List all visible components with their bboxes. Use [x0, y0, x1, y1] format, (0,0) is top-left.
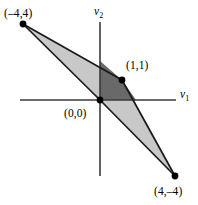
point-marker-one-one — [119, 77, 126, 84]
v2-axis-label: v2 — [94, 6, 103, 18]
figure-canvas — [0, 0, 198, 205]
point-marker-bottom-right — [172, 173, 179, 180]
point-marker-top-left — [20, 21, 27, 28]
v2-axis-label-subscript: 2 — [99, 11, 103, 20]
v1-axis-label: v1 — [180, 89, 189, 101]
point-label-top-left: (–4,4) — [4, 8, 32, 20]
point-label-one-one: (1,1) — [126, 60, 149, 72]
v1-axis-label-subscript: 1 — [185, 94, 189, 103]
point-marker-origin — [97, 97, 104, 104]
point-label-origin: (0,0) — [64, 108, 87, 120]
point-label-bottom-right: (4,–4) — [154, 186, 182, 198]
vector-span-figure: (–4,4) (1,1) (0,0) (4,–4) v2 v1 — [0, 0, 198, 205]
